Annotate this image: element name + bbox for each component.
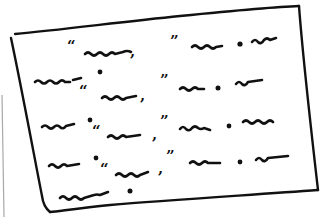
period-dot — [128, 189, 133, 194]
period-dot — [94, 156, 99, 161]
period-dot — [238, 160, 243, 165]
text-line-4: “ , ” — [42, 112, 273, 143]
background-edge-line — [2, 95, 4, 217]
open-quote-glyph: “ — [79, 82, 88, 100]
text-line-5: “ , ” — [49, 147, 288, 178]
squiggle-word — [108, 135, 140, 139]
text-line-2 — [35, 70, 102, 84]
period-dot — [227, 124, 232, 129]
comma-glyph: , — [158, 159, 163, 177]
period-dot — [237, 41, 242, 46]
squiggle-word — [116, 172, 148, 177]
open-quote-glyph: “ — [67, 37, 76, 55]
squiggle-word — [243, 121, 273, 124]
squiggle-word — [102, 96, 136, 100]
squiggle-word — [180, 88, 204, 91]
squiggle-word — [190, 162, 220, 165]
close-quote-glyph: ” — [166, 147, 175, 165]
squiggle-word — [236, 80, 262, 85]
comma-glyph: , — [140, 86, 145, 104]
comma-glyph: , — [152, 125, 157, 143]
squiggle-word — [35, 81, 70, 84]
text-line-3: “ , ” — [79, 71, 262, 104]
close-quote-glyph: ” — [160, 112, 169, 130]
squiggle-word — [256, 156, 288, 161]
period-dot — [98, 70, 103, 75]
squiggle-word — [42, 124, 74, 129]
comma-glyph: , — [130, 42, 135, 60]
squiggle-word — [180, 127, 210, 131]
period-dot — [216, 86, 221, 91]
text-line-6 — [60, 189, 133, 200]
open-quote-glyph: “ — [92, 122, 101, 140]
close-quote-glyph: ” — [170, 32, 179, 50]
squiggle-word — [192, 46, 222, 49]
squiggle-word — [49, 164, 79, 168]
squiggle-word — [60, 192, 108, 200]
close-quote-glyph: ” — [160, 71, 169, 89]
squiggle-word — [252, 38, 276, 43]
open-quote-glyph: “ — [100, 160, 109, 178]
squiggle-word — [85, 51, 131, 56]
page-outline — [11, 6, 318, 212]
squiggle-word — [73, 78, 81, 80]
text-line-1: “ , ” — [67, 32, 276, 60]
sketch-page-illustration: “ , ” “ , ” “ , ” “ — [0, 0, 322, 217]
